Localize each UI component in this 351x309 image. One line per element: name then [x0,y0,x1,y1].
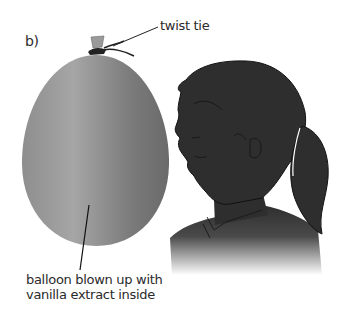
balloon-label: balloon blown up with vanilla extract in… [26,272,162,302]
illustration-canvas [0,0,351,309]
panel-label: b) [25,34,39,49]
twist-tie-knot [88,36,134,56]
twist-tie-label: twist tie [160,18,209,33]
balloon-label-line-2: vanilla extract inside [26,287,162,302]
balloon-illustration [22,55,169,246]
twist-tie-pointer [113,27,158,46]
balloon-label-line-1: balloon blown up with [26,272,162,287]
